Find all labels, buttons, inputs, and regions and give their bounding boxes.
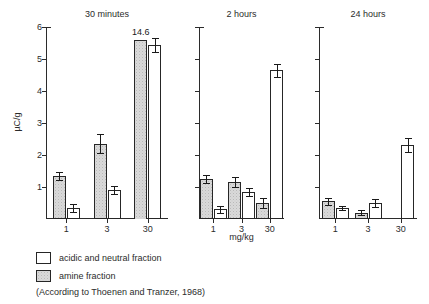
y-axis-label: µC/g — [12, 107, 22, 137]
error-cap-upper-p2-dose30-s2 — [274, 64, 281, 65]
x-tick-p2-30 — [270, 219, 271, 223]
error-cap-upper-p2-dose3-s1 — [232, 177, 239, 178]
y-tick-1-3 — [42, 123, 46, 124]
plot-area-3: 1330 — [319, 27, 417, 219]
y-tick-label-6: 6 — [37, 23, 42, 32]
error-cap-lower-p2-dose1-s2 — [217, 213, 224, 214]
x-tick-p3-3 — [368, 219, 369, 223]
error-cap-lower-p2-dose3-s1 — [232, 187, 239, 188]
source-note: (According to Thoenen and Tranzer, 1968) — [36, 287, 205, 297]
error-cap-lower-p1-dose30-s2 — [152, 52, 159, 53]
y-tick-2-2 — [195, 155, 199, 156]
error-cap-lower-p3-dose3-s2 — [372, 207, 379, 208]
error-bar-p3-dose3-s2 — [375, 199, 376, 207]
x-axis-label: mg/kg — [229, 232, 254, 242]
y-tick-3-2 — [315, 155, 319, 156]
error-cap-lower-p3-dose30-s2 — [405, 152, 412, 153]
y-axis-line-3 — [319, 27, 320, 219]
error-cap-lower-p2-dose1-s1 — [203, 183, 210, 184]
x-tick-p2-3 — [242, 219, 243, 223]
error-cap-upper-p1-dose30-s2 — [152, 38, 159, 39]
x-tick-p1-30 — [148, 219, 149, 223]
legend-item-acidic: acidic and neutral fraction — [36, 250, 162, 265]
error-cap-upper-p2-dose30-s1 — [260, 198, 267, 199]
x-tick-p2-1 — [213, 219, 214, 223]
y-tick-label-1: 1 — [37, 183, 42, 192]
error-cap-upper-p2-dose1-s1 — [203, 175, 210, 176]
legend: acidic and neutral fractionamine fractio… — [36, 250, 162, 286]
x-tick-label-p1-1: 1 — [64, 225, 69, 234]
x-tick-label-p1-30: 30 — [143, 225, 153, 234]
y-tick-label-4: 4 — [37, 87, 42, 96]
error-cap-lower-p2-dose30-s1 — [260, 208, 267, 209]
x-tick-label-p3-1: 1 — [333, 225, 338, 234]
bar-acidic-p1-dose30 — [148, 45, 161, 219]
y-tick-3-5 — [315, 59, 319, 60]
x-tick-label-p3-3: 3 — [365, 225, 370, 234]
x-tick-p3-1 — [335, 219, 336, 223]
y-tick-1-4 — [42, 91, 46, 92]
error-cap-upper-p3-dose3-s1 — [358, 210, 365, 211]
y-tick-3-4 — [315, 91, 319, 92]
x-tick-p1-1 — [66, 219, 67, 223]
error-cap-lower-p3-dose1-s2 — [339, 210, 346, 211]
panel-title-1: 30 minutes — [46, 9, 168, 19]
error-cap-lower-p2-dose3-s2 — [246, 196, 253, 197]
bar-amine-p1-dose3 — [94, 144, 107, 219]
legend-label-amine: amine fraction — [59, 271, 116, 281]
y-tick-2-1 — [195, 187, 199, 188]
y-axis-line-1 — [46, 27, 47, 219]
y-tick-1-1 — [42, 187, 46, 188]
figure-bar-chart-radioactivity: µC/g 30 minutes1234561314.6302 hours1330… — [0, 0, 429, 304]
x-tick-label-p1-3: 3 — [104, 225, 109, 234]
x-tick-p3-30 — [401, 219, 402, 223]
bar-amine-p2-dose1 — [200, 179, 213, 219]
y-tick-3-3 — [315, 123, 319, 124]
error-bar-p1-dose3-s1 — [100, 134, 101, 153]
bar-amine-p1-dose1 — [53, 176, 66, 219]
plot-area-2: 1330 — [199, 27, 284, 219]
y-tick-1-6 — [42, 27, 46, 28]
y-tick-label-2: 2 — [37, 151, 42, 160]
error-cap-lower-p2-dose30-s2 — [274, 77, 281, 78]
legend-label-acidic: acidic and neutral fraction — [59, 253, 162, 263]
bar-value-label-p1-dose30: 14.6 — [132, 28, 150, 37]
error-cap-lower-p3-dose3-s1 — [358, 215, 365, 216]
error-cap-upper-p1-dose1-s2 — [70, 204, 77, 205]
bar-amine-p1-dose30 — [134, 40, 147, 219]
panel-title-3: 24 hours — [319, 9, 417, 19]
error-bar-p1-dose3-s2 — [114, 186, 115, 194]
y-tick-2-3 — [195, 123, 199, 124]
y-axis-top-cap-2 — [199, 27, 204, 28]
bar-acidic-p3-dose30 — [401, 145, 414, 219]
y-axis-top-cap-3 — [319, 27, 324, 28]
panel-title-2: 2 hours — [199, 9, 284, 19]
error-bar-p1-dose30-s2 — [155, 38, 156, 52]
error-bar-p2-dose1-s1 — [206, 175, 207, 183]
y-tick-3-1 — [315, 187, 319, 188]
error-cap-lower-p1-dose3-s1 — [97, 153, 104, 154]
error-cap-lower-p1-dose1-s1 — [56, 180, 63, 181]
error-cap-upper-p1-dose3-s1 — [97, 134, 104, 135]
error-bar-p2-dose30-s1 — [263, 198, 264, 208]
y-axis-top-cap-1 — [46, 27, 51, 28]
error-bar-p1-dose1-s2 — [73, 204, 74, 212]
legend-swatch-acidic — [36, 252, 51, 264]
error-cap-lower-p1-dose1-s2 — [70, 212, 77, 213]
error-cap-upper-p3-dose30-s2 — [405, 138, 412, 139]
error-cap-upper-p1-dose1-s1 — [56, 172, 63, 173]
error-bar-p3-dose30-s2 — [408, 138, 409, 152]
y-tick-label-3: 3 — [37, 119, 42, 128]
error-cap-upper-p2-dose1-s2 — [217, 206, 224, 207]
error-cap-lower-p1-dose3-s2 — [111, 194, 118, 195]
error-cap-lower-p3-dose1-s1 — [325, 205, 332, 206]
x-tick-label-p3-30: 30 — [396, 225, 406, 234]
error-bar-p2-dose30-s2 — [277, 64, 278, 77]
error-cap-upper-p3-dose1-s1 — [325, 198, 332, 199]
plot-area-1: 1234561314.630 — [46, 27, 168, 219]
y-tick-1-2 — [42, 155, 46, 156]
legend-swatch-amine — [36, 270, 51, 282]
legend-item-amine: amine fraction — [36, 268, 162, 283]
y-tick-label-5: 5 — [37, 55, 42, 64]
error-bar-p1-dose1-s1 — [59, 172, 60, 180]
